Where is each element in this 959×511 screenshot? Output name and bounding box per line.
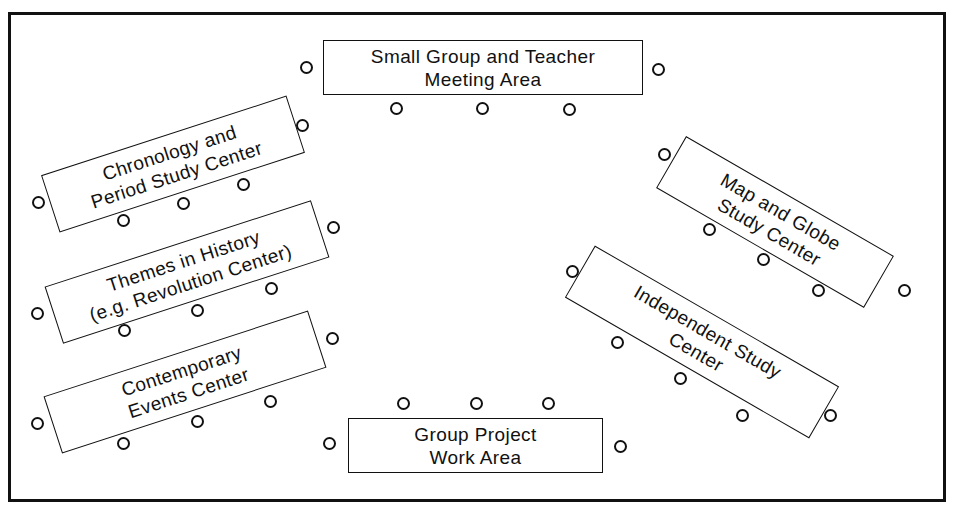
station-label-line1: Small Group and Teacher [371,45,595,68]
chair-icon [898,284,911,297]
chair-icon [264,395,277,408]
chair-icon [614,440,627,453]
chair-icon [757,253,770,266]
chair-icon [658,148,671,161]
chair-icon [327,221,340,234]
station-label-line2: Work Area [430,446,522,469]
chair-icon [191,415,204,428]
chair-icon [470,397,483,410]
station-small-group-teacher-meeting-area: Small Group and Teacher Meeting Area [323,40,643,95]
chair-icon [476,102,489,115]
chair-icon [397,397,410,410]
chair-icon [296,119,309,132]
chair-icon [542,397,555,410]
station-label-line1: Group Project [414,423,536,446]
chair-icon [736,409,749,422]
chair-icon [824,409,837,422]
chair-icon [674,372,687,385]
chair-icon [563,103,576,116]
chair-icon [566,265,579,278]
chair-icon [31,417,44,430]
chair-icon [703,223,716,236]
station-label-line2: Meeting Area [425,68,542,91]
chair-icon [177,197,190,210]
chair-icon [265,282,278,295]
chair-icon [117,214,130,227]
chair-icon [326,332,339,345]
chair-icon [117,437,130,450]
chair-icon [191,304,204,317]
chair-icon [390,102,403,115]
chair-icon [237,178,250,191]
chair-icon [812,284,825,297]
chair-icon [300,61,313,74]
chair-icon [31,307,44,320]
chair-icon [323,437,336,450]
chair-icon [32,196,45,209]
station-group-project-work-area: Group Project Work Area [348,418,603,473]
chair-icon [652,63,665,76]
chair-icon [611,336,624,349]
chair-icon [118,324,131,337]
